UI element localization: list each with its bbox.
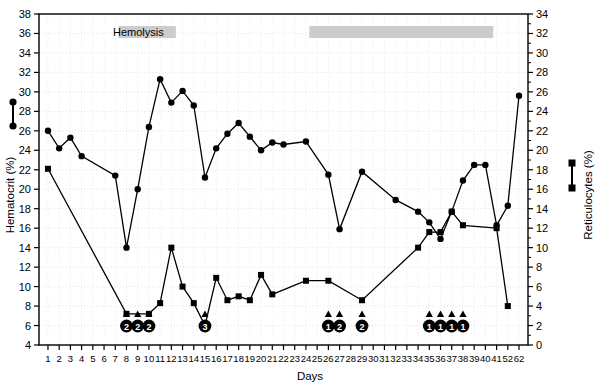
x-tick-label: 26 bbox=[323, 353, 334, 364]
x-tick-label: 27 bbox=[334, 353, 345, 364]
y-tick-label-left: 4 bbox=[25, 339, 31, 351]
x-tick-label: 23 bbox=[289, 353, 300, 364]
x-tick-label: 20 bbox=[256, 353, 267, 364]
transfusion-triangle-marker bbox=[459, 311, 466, 317]
x-tick-label: 28 bbox=[346, 353, 357, 364]
data-point-circle bbox=[134, 186, 140, 192]
data-point-circle bbox=[303, 138, 309, 144]
data-point-circle bbox=[247, 133, 253, 139]
data-point-circle bbox=[45, 128, 51, 134]
data-point-circle bbox=[258, 147, 264, 153]
x-tick-label: 39 bbox=[469, 353, 480, 364]
data-point-circle bbox=[146, 124, 152, 130]
data-point-square bbox=[236, 293, 242, 299]
y-tick-label-left: 32 bbox=[19, 66, 31, 78]
transfusion-badge-label: 1 bbox=[438, 322, 443, 332]
x-tick-label: 62 bbox=[514, 353, 525, 364]
legend-left-marker-circle-bottom bbox=[9, 122, 16, 129]
transfusion-badge-label: 1 bbox=[326, 322, 331, 332]
data-point-square bbox=[180, 284, 186, 290]
x-tick-label: 31 bbox=[379, 353, 390, 364]
y-tick-label-right: 26 bbox=[536, 86, 548, 98]
data-point-circle bbox=[179, 88, 185, 94]
hemolysis-label: Hemolysis bbox=[113, 26, 164, 38]
data-point-square bbox=[438, 229, 444, 235]
x-tick-label: 1 bbox=[45, 353, 50, 364]
transfusion-badge-label: 2 bbox=[146, 322, 151, 332]
x-tick-label: 36 bbox=[435, 353, 446, 364]
data-point-square bbox=[449, 209, 455, 215]
y-tick-label-left: 24 bbox=[19, 144, 31, 156]
y-tick-label-right: 18 bbox=[536, 164, 548, 176]
data-point-square bbox=[325, 278, 331, 284]
data-point-circle bbox=[191, 102, 197, 108]
transfusion-triangle-marker bbox=[336, 311, 343, 317]
y-tick-label-left: 10 bbox=[19, 281, 31, 293]
x-tick-label: 21 bbox=[267, 353, 278, 364]
data-point-circle bbox=[235, 120, 241, 126]
y-tick-label-right: 0 bbox=[536, 339, 542, 351]
data-point-square bbox=[258, 272, 264, 278]
data-point-square bbox=[168, 245, 174, 251]
data-point-square bbox=[415, 245, 421, 251]
y-tick-label-left: 34 bbox=[19, 47, 31, 59]
transfusion-badge-label: 2 bbox=[360, 322, 365, 332]
transfusion-badge-label: 1 bbox=[427, 322, 432, 332]
y-tick-label-left: 16 bbox=[19, 222, 31, 234]
data-point-square bbox=[269, 291, 275, 297]
data-point-circle bbox=[471, 162, 477, 168]
y-tick-label-right: 6 bbox=[536, 281, 542, 293]
data-point-square bbox=[157, 300, 163, 306]
transfusion-triangle-marker bbox=[358, 311, 365, 317]
x-tick-label: 3 bbox=[68, 353, 73, 364]
x-tick-label: 5 bbox=[90, 353, 95, 364]
data-point-circle bbox=[415, 208, 421, 214]
y-tick-label-left: 20 bbox=[19, 183, 31, 195]
data-point-circle bbox=[392, 197, 398, 203]
transfusion-badge-label: 3 bbox=[202, 322, 207, 332]
data-point-square bbox=[45, 166, 51, 172]
data-point-circle bbox=[78, 153, 84, 159]
data-point-circle bbox=[359, 169, 365, 175]
x-tick-label: 38 bbox=[458, 353, 469, 364]
x-tick-label: 37 bbox=[446, 353, 457, 364]
x-tick-label: 17 bbox=[222, 353, 233, 364]
legend-layer bbox=[9, 98, 575, 191]
transfusion-triangle-marker bbox=[448, 311, 455, 317]
legend-left-marker-circle-top bbox=[9, 98, 16, 105]
y-axis-left-title: Hematocrit (%) bbox=[4, 156, 16, 233]
y-tick-label-left: 28 bbox=[19, 105, 31, 117]
x-tick-label: 30 bbox=[368, 353, 379, 364]
y-tick-label-right: 34 bbox=[536, 8, 548, 20]
data-point-circle bbox=[56, 145, 62, 151]
y-tick-label-right: 24 bbox=[536, 105, 548, 117]
x-tick-label: 18 bbox=[233, 353, 244, 364]
x-tick-label: 25 bbox=[312, 353, 323, 364]
y-tick-label-right: 30 bbox=[536, 47, 548, 59]
data-point-square bbox=[505, 303, 511, 309]
data-point-circle bbox=[123, 244, 129, 250]
data-point-circle bbox=[67, 134, 73, 140]
transfusion-triangle-marker bbox=[426, 311, 433, 317]
x-tick-label: 29 bbox=[357, 353, 368, 364]
data-point-circle bbox=[437, 236, 443, 242]
y-tick-label-left: 14 bbox=[19, 242, 31, 254]
y-tick-label-left: 6 bbox=[25, 320, 31, 332]
y-tick-label-right: 16 bbox=[536, 183, 548, 195]
y-tick-label-left: 18 bbox=[19, 203, 31, 215]
y-tick-label-left: 30 bbox=[19, 86, 31, 98]
y-axis-right-ticks: 0246810121416182022242628303234 bbox=[528, 8, 548, 351]
x-axis-ticks: 1234567891011121314151617181920212223242… bbox=[45, 345, 524, 364]
x-tick-label: 33 bbox=[402, 353, 413, 364]
y-tick-label-right: 12 bbox=[536, 222, 548, 234]
data-point-square bbox=[191, 300, 197, 306]
series-line bbox=[48, 169, 508, 326]
data-point-square bbox=[359, 297, 365, 303]
x-tick-label: 22 bbox=[278, 353, 289, 364]
data-point-circle bbox=[269, 139, 275, 145]
data-point-circle bbox=[460, 177, 466, 183]
data-point-square bbox=[224, 297, 230, 303]
x-tick-label: 6 bbox=[101, 353, 106, 364]
y-tick-label-right: 28 bbox=[536, 66, 548, 78]
y-tick-label-left: 38 bbox=[19, 8, 31, 20]
